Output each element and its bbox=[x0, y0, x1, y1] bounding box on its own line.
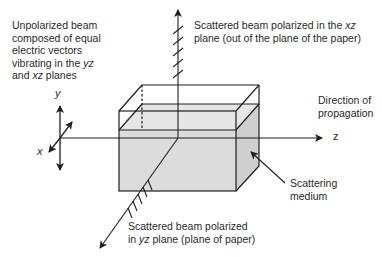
scattered-yz-label: Scattered beam polarized in yz plane (pl… bbox=[128, 220, 255, 245]
unpolarized-beam-label: Unpolarized beam composed of equal elect… bbox=[12, 19, 101, 82]
x-axis-label: x bbox=[37, 145, 43, 157]
scattering-medium-label: Scattering medium bbox=[290, 177, 337, 202]
scattered-xz-label: Scattered beam polarized in the xz plane… bbox=[194, 19, 361, 44]
direction-of-propagation-label: Direction of propagation bbox=[318, 94, 373, 119]
y-axis-label: y bbox=[55, 87, 61, 99]
z-axis-label: z bbox=[333, 130, 339, 142]
